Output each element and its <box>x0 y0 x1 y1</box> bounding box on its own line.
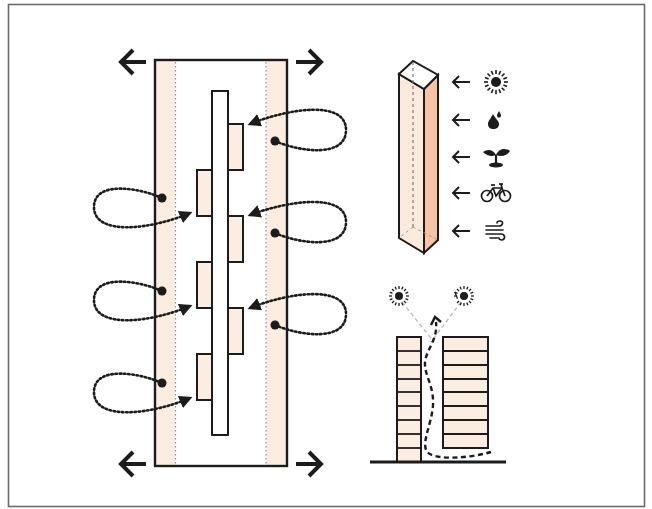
building-block-right-3 <box>228 308 243 354</box>
sun-icon-left <box>389 286 409 306</box>
airflow-loop-right-3 <box>250 294 346 334</box>
bicycle-icon <box>482 184 511 202</box>
tower-front-face <box>399 74 424 253</box>
outer-frame <box>9 5 645 507</box>
arrow-water <box>453 114 470 126</box>
water-drop-icon <box>488 111 501 129</box>
sun-icon <box>484 70 508 94</box>
tower-input-arrows <box>453 76 470 237</box>
diagram-canvas <box>0 0 652 509</box>
central-spine <box>212 91 228 435</box>
building-block-right-2 <box>228 216 243 262</box>
arrow-wind <box>453 225 470 237</box>
arrow-sprout <box>453 151 470 163</box>
building-left <box>397 337 421 462</box>
plan-sidewalk-right <box>266 60 287 466</box>
arrow-bicycle <box>453 187 470 199</box>
expand-arrow-bottom-left <box>121 452 146 476</box>
arrow-sun <box>453 76 470 88</box>
airflow-loop-right-2 <box>250 202 346 242</box>
tower-side-face <box>424 75 438 253</box>
expand-arrow-bottom-right <box>296 452 321 476</box>
sprout-icon <box>483 149 510 167</box>
sun-icon-right <box>454 286 474 306</box>
wind-icon <box>486 221 505 240</box>
airflow-loop-right-1 <box>250 110 346 150</box>
building-block-right-1 <box>228 124 243 170</box>
street-plan <box>94 50 346 476</box>
building-block-left-2 <box>197 262 212 308</box>
expand-arrow-top-right <box>296 50 321 74</box>
expand-arrow-top-left <box>121 50 146 74</box>
building-block-left-1 <box>197 170 212 216</box>
building-right <box>443 337 488 448</box>
tower-axonometric <box>399 61 438 253</box>
street-canyon-section <box>370 286 506 462</box>
building-block-left-3 <box>197 354 212 400</box>
